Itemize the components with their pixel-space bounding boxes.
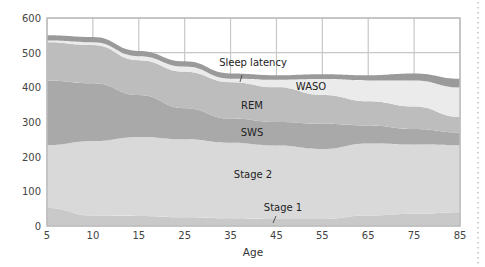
- y-tick-label: 500: [22, 48, 41, 59]
- x-tick-label: 10: [87, 230, 100, 241]
- y-tick-label: 100: [22, 186, 41, 197]
- x-tick-label: 25: [178, 230, 191, 241]
- x-tick-label: 35: [224, 230, 237, 241]
- y-tick-label: 400: [22, 82, 41, 93]
- y-tick-label: 300: [22, 117, 41, 128]
- y-tick-label: 600: [22, 13, 41, 24]
- label-stage-1: Stage 1: [264, 202, 302, 213]
- label-rem: REM: [241, 100, 263, 111]
- label-sws: SWS: [241, 127, 264, 138]
- x-tick-label: 5: [44, 230, 50, 241]
- label-sleep-latency: Sleep latency: [219, 57, 287, 68]
- sleep-stages-area-chart: 0100200300400500600 5101525354555657585 …: [0, 0, 485, 267]
- y-tick-label: 200: [22, 152, 41, 163]
- label-waso: WASO: [296, 81, 327, 92]
- y-tick-label: 0: [35, 221, 41, 232]
- x-axis-title: Age: [243, 246, 263, 258]
- x-tick-label: 65: [362, 230, 375, 241]
- x-tick-label: 15: [132, 230, 145, 241]
- x-axis-ticks: 5101525354555657585: [44, 230, 467, 241]
- x-tick-label: 45: [270, 230, 283, 241]
- y-axis-ticks: 0100200300400500600: [22, 13, 41, 232]
- x-tick-label: 55: [316, 230, 329, 241]
- x-tick-label: 75: [408, 230, 421, 241]
- label-stage-2: Stage 2: [234, 169, 272, 180]
- x-tick-label: 85: [454, 230, 467, 241]
